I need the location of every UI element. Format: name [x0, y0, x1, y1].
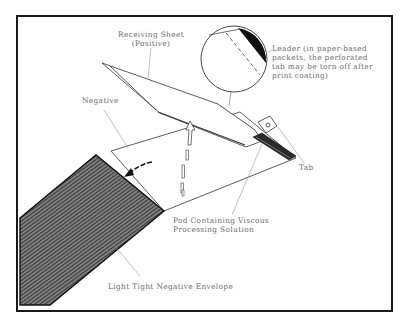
label-leader-line4: print coating)	[272, 71, 373, 80]
label-leader: Leader (in paper-based packets, the perf…	[272, 44, 373, 80]
label-pod-line1: Pod Containing Viscous	[173, 216, 269, 225]
label-pod-line2: Processing Solution	[173, 225, 269, 234]
film-packet-diagram: Receiving Sheet (Positive) Leader (in pa…	[0, 0, 407, 325]
label-receiving-line2: (Positive)	[116, 39, 186, 48]
detail-circle-icon	[201, 26, 267, 106]
label-pod: Pod Containing Viscous Processing Soluti…	[173, 216, 269, 234]
label-envelope: Light Tight Negative Envelope	[108, 282, 233, 291]
label-receiving-sheet: Receiving Sheet (Positive)	[116, 30, 186, 48]
label-leader-line3: tab may be torn off after	[272, 62, 373, 71]
label-tab: Tab	[299, 163, 314, 172]
label-leader-line1: Leader (in paper-based	[272, 44, 373, 53]
label-negative: Negative	[82, 96, 119, 105]
label-receiving-line1: Receiving Sheet	[116, 30, 186, 39]
label-leader-line2: packets, the perforated	[272, 53, 373, 62]
